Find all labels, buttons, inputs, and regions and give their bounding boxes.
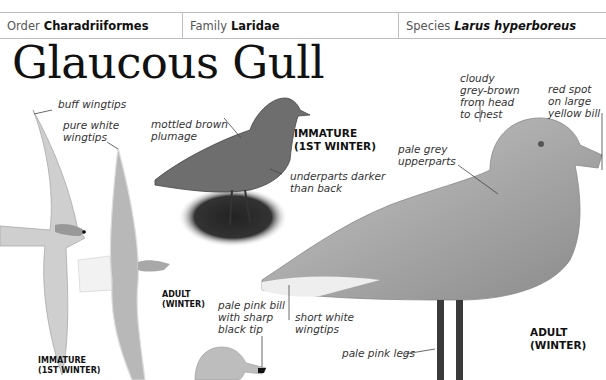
- annotation-underparts-darker: underparts darker than back: [290, 170, 390, 194]
- tag-line: ADULT: [530, 326, 586, 339]
- annotation-pure-white-wingtips: pure white wingtips: [63, 119, 133, 143]
- annotation-pale-grey-upperparts: pale grey upperparts: [398, 143, 470, 167]
- annotation-short-white-wingtips: short white wingtips: [295, 311, 355, 335]
- tag-adult-flight: ADULT (WINTER): [162, 290, 205, 310]
- tag-immature-standing: IMMATURE (1ST WINTER): [294, 127, 376, 153]
- annotation-buff-wingtips: buff wingtips: [58, 98, 126, 110]
- annotation-mottled-brown-plumage: mottled brown plumage: [151, 118, 241, 142]
- tag-line: (WINTER): [162, 300, 205, 310]
- tag-immature-flight: IMMATURE (1ST WINTER): [38, 356, 100, 376]
- annotation-pale-pink-bill: pale pink bill with sharp black tip: [218, 299, 298, 335]
- immature-flight-illustration: [0, 110, 86, 375]
- tag-line: (1ST WINTER): [294, 140, 376, 153]
- tag-adult-standing: ADULT (WINTER): [530, 326, 586, 352]
- annotation-cloudy-grey-brown: cloudy grey-brown from head to chest: [460, 72, 520, 120]
- tag-line: IMMATURE: [38, 356, 100, 366]
- annotation-pale-pink-legs: pale pink legs: [342, 347, 415, 359]
- tag-line: IMMATURE: [294, 127, 376, 140]
- tag-line: (WINTER): [530, 339, 586, 352]
- tag-line: (1ST WINTER): [38, 366, 100, 376]
- tag-line: ADULT: [162, 290, 205, 300]
- immature-head-illustration: [195, 347, 266, 380]
- annotation-red-spot-bill: red spot on large yellow bill: [548, 83, 606, 119]
